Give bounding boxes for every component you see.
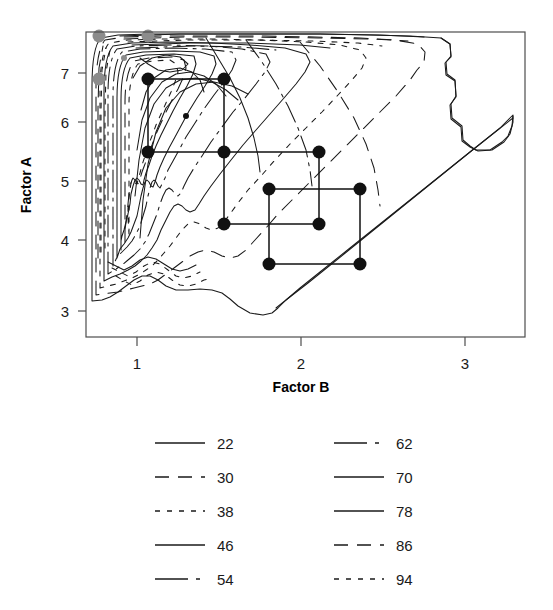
- x-axis-title: Factor B: [273, 379, 330, 395]
- legend-label-70: 70: [396, 469, 413, 486]
- design-point: [354, 183, 367, 196]
- design-point: [263, 183, 276, 196]
- design-point: [142, 73, 155, 86]
- start-center-point: [121, 55, 127, 61]
- legend-label-62: 62: [396, 435, 413, 452]
- y-tick-label-7: 7: [61, 65, 69, 82]
- contour-plot-figure: 7 6 5 4 3 1 2 3 Factor A Factor B 22 30: [0, 0, 553, 610]
- design-point: [142, 146, 155, 159]
- x-tick-label-3: 3: [461, 355, 469, 372]
- design-point: [313, 146, 326, 159]
- x-tick-label-2: 2: [297, 355, 305, 372]
- legend-label-78: 78: [396, 503, 413, 520]
- legend-label-94: 94: [396, 571, 413, 588]
- design-point: [354, 258, 367, 271]
- x-tick-label-1: 1: [133, 355, 141, 372]
- legend-label-54: 54: [217, 571, 234, 588]
- design-point: [218, 146, 231, 159]
- legend-label-46: 46: [217, 537, 234, 554]
- design-point: [218, 218, 231, 231]
- start-point: [93, 73, 106, 86]
- legend-label-38: 38: [217, 503, 234, 520]
- figure-background: [0, 0, 553, 610]
- design-point: [263, 258, 276, 271]
- legend-label-22: 22: [217, 435, 234, 452]
- design-point: [313, 218, 326, 231]
- design-center-point: [183, 113, 189, 119]
- design-point: [218, 73, 231, 86]
- y-tick-label-3: 3: [61, 303, 69, 320]
- y-tick-label-6: 6: [61, 114, 69, 131]
- legend-label-30: 30: [217, 469, 234, 486]
- y-axis-title: Factor A: [18, 157, 34, 213]
- y-tick-label-4: 4: [61, 232, 69, 249]
- legend-label-86: 86: [396, 537, 413, 554]
- y-tick-label-5: 5: [61, 173, 69, 190]
